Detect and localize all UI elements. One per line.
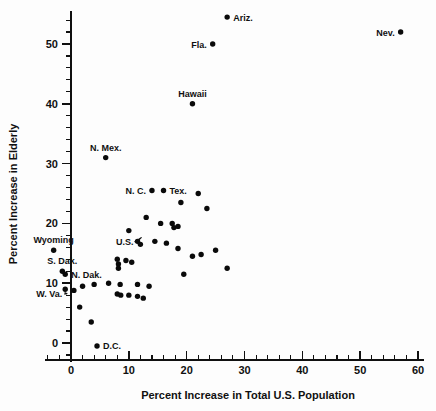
data-point-labeled bbox=[94, 343, 99, 348]
data-point bbox=[91, 282, 96, 287]
point-label: Ariz. bbox=[233, 13, 253, 23]
data-point bbox=[196, 191, 201, 196]
point-label: Tex. bbox=[170, 186, 187, 196]
point-label: N. C. bbox=[125, 186, 146, 196]
chart-canvas: 01020304050 0102030405060 Ariz.Nev.Fla.H… bbox=[0, 0, 436, 411]
data-point-labeled bbox=[63, 286, 68, 291]
data-point bbox=[158, 221, 163, 226]
x-tick-label: 60 bbox=[412, 364, 424, 376]
data-point bbox=[175, 246, 180, 251]
y-tick-label: 40 bbox=[46, 98, 58, 110]
x-axis-group: 0102030405060 bbox=[45, 351, 424, 376]
x-tick-label: 30 bbox=[238, 364, 250, 376]
data-point bbox=[152, 239, 157, 244]
data-point bbox=[89, 319, 94, 324]
data-point bbox=[126, 292, 131, 297]
x-tick-label: 10 bbox=[123, 364, 135, 376]
data-point bbox=[138, 242, 143, 247]
point-label: W. Va. bbox=[36, 289, 62, 299]
data-point bbox=[129, 260, 134, 265]
data-point bbox=[198, 252, 203, 257]
data-point bbox=[123, 258, 128, 263]
data-point-labeled bbox=[398, 29, 403, 34]
y-axis-title: Percent Increase in Elderly bbox=[7, 123, 19, 265]
x-tick-label: 20 bbox=[181, 364, 193, 376]
data-point-labeled bbox=[149, 188, 154, 193]
data-point bbox=[213, 248, 218, 253]
data-point-labeled bbox=[224, 14, 229, 19]
data-point bbox=[204, 206, 209, 211]
y-tick-label: 30 bbox=[46, 158, 58, 170]
data-point bbox=[115, 257, 120, 262]
data-point bbox=[118, 292, 123, 297]
data-point bbox=[164, 240, 169, 245]
y-tick-label: 0 bbox=[52, 337, 58, 349]
data-point bbox=[135, 282, 140, 287]
point-label: N. Dak. bbox=[71, 270, 102, 280]
point-label: U.S. bbox=[116, 237, 134, 247]
x-axis-title: Percent Increase in Total U.S. Populatio… bbox=[141, 389, 355, 401]
data-point bbox=[143, 215, 148, 220]
y-tick-label: 50 bbox=[46, 38, 58, 50]
point-label: D.C. bbox=[103, 341, 121, 351]
y-tick-label: 10 bbox=[46, 277, 58, 289]
data-points-group bbox=[51, 14, 403, 348]
data-point-labeled bbox=[190, 101, 195, 106]
data-point bbox=[126, 228, 131, 233]
data-point-labeled bbox=[161, 188, 166, 193]
point-label: S. Dak. bbox=[47, 256, 77, 266]
point-labels-group: Ariz.Nev.Fla.HawaiiN. Mex.N. C.Tex.Wyomi… bbox=[33, 13, 394, 352]
data-point bbox=[80, 283, 85, 288]
data-point bbox=[181, 272, 186, 277]
point-label: Wyoming bbox=[33, 235, 73, 245]
point-label: Fla. bbox=[191, 40, 207, 50]
x-tick-label: 0 bbox=[68, 364, 74, 376]
x-tick-label: 50 bbox=[354, 364, 366, 376]
data-point bbox=[77, 304, 82, 309]
data-point bbox=[146, 283, 151, 288]
point-label: Nev. bbox=[376, 28, 394, 38]
x-tick-label: 40 bbox=[296, 364, 308, 376]
data-point bbox=[116, 266, 121, 271]
data-point bbox=[106, 281, 111, 286]
data-point bbox=[175, 224, 180, 229]
y-axis-group: 01020304050 bbox=[46, 11, 71, 362]
data-point bbox=[117, 282, 122, 287]
data-point bbox=[190, 254, 195, 259]
data-point-labeled bbox=[210, 41, 215, 46]
data-point-labeled bbox=[103, 155, 108, 160]
data-point bbox=[71, 288, 76, 293]
y-tick-label: 20 bbox=[46, 217, 58, 229]
data-point bbox=[178, 200, 183, 205]
data-point bbox=[135, 294, 140, 299]
data-point-labeled bbox=[51, 248, 56, 253]
data-point-labeled bbox=[63, 272, 68, 277]
scatter-plot-figure: 01020304050 0102030405060 Ariz.Nev.Fla.H… bbox=[0, 0, 436, 411]
data-point bbox=[224, 266, 229, 271]
point-label: Hawaii bbox=[178, 89, 207, 99]
data-point bbox=[141, 295, 146, 300]
point-label: N. Mex. bbox=[90, 143, 122, 153]
leader-line bbox=[64, 291, 67, 294]
